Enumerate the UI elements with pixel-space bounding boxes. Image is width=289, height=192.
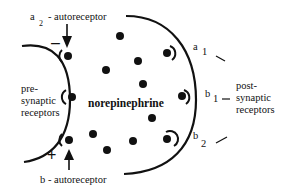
presynaptic-label-line1: pre- [21,83,38,94]
plus-sign: + [47,146,56,163]
molecule [139,80,147,88]
b2-connector [216,137,227,143]
a2-label-sub: 2 [39,19,43,28]
molecule [148,114,156,122]
molecule [129,137,137,145]
postsynaptic-label-line1: post- [236,80,258,91]
a2-label-suffix: - autoreceptor [48,11,107,22]
a1-connector [216,56,225,61]
a2-label-main: a [30,11,35,22]
b2-label-sub: 2 [201,138,206,149]
b2-label-main: b [193,130,198,141]
norepinephrine-label: norepinephrine [88,97,164,110]
molecule [102,66,110,74]
molecule [89,130,97,138]
postsynaptic-label-line2: synaptic [236,92,271,103]
b-autoreceptor-label: b - autoreceptor [40,174,107,185]
a2-arrow-head [62,36,72,48]
norepinephrine-molecules [89,32,156,154]
b-arrow-head [64,149,74,160]
b1-label-sub: 1 [213,93,218,104]
presynaptic-label-line2: synaptic [21,95,56,106]
molecule [103,146,111,154]
molecule [116,32,124,40]
b1-label-main: b [205,88,210,99]
a1-label-main: a [193,41,198,52]
molecule [134,57,142,65]
presynaptic-label-line3: receptors [21,107,59,118]
postsynaptic-receptor-a1 [163,46,175,60]
postsynaptic-receptor-b1 [178,90,189,104]
synapse-diagram: a 2 - autoreceptor – + b - autoreceptor … [0,0,289,192]
postsynaptic-label-line3: receptors [236,104,274,115]
presynaptic-receptor-a2 [59,50,72,62]
a1-label-sub: 1 [202,46,207,57]
minus-sign: – [51,34,60,51]
postsynaptic-receptor-b2 [163,131,178,146]
